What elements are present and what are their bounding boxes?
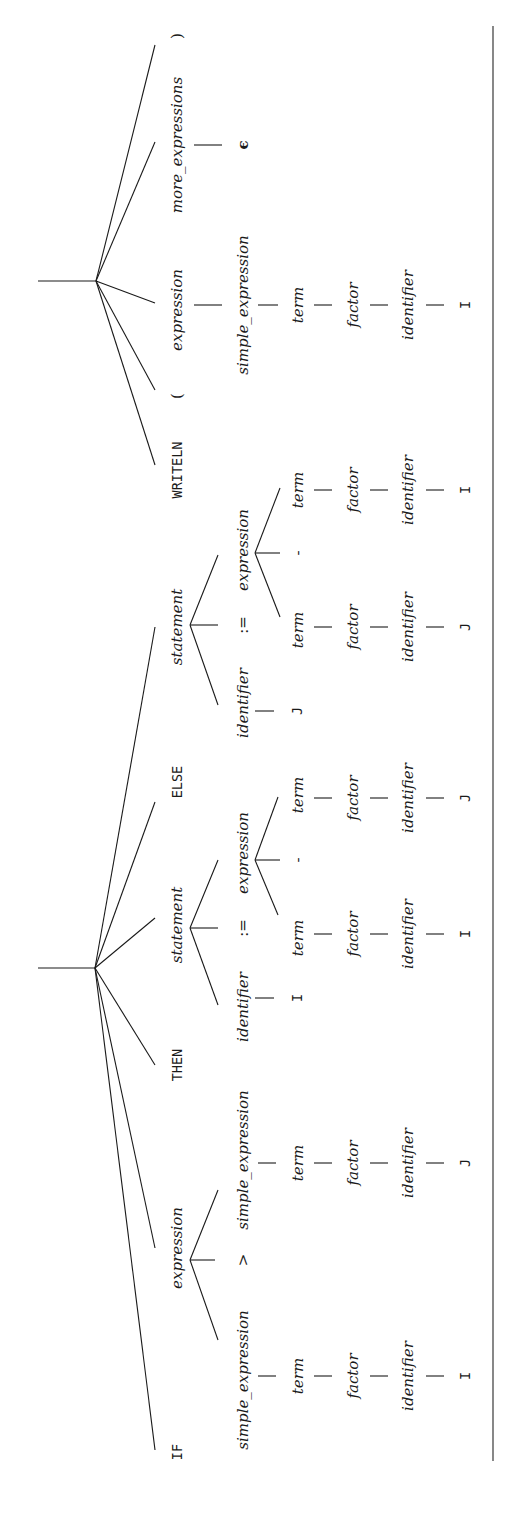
leaf-token: J [457,794,473,802]
edge-stmt2-expr [190,555,218,625]
edge-stmt1-expr [190,860,218,928]
if-keyword: IF [169,1444,185,1460]
node-identifier: identifier [399,898,417,969]
leaf-token: J [289,707,305,715]
node-statement-else: statement [168,588,186,665]
edge-root-then [95,968,155,1065]
node-simple-expression-right: simple_expression [234,1090,252,1229]
writeln-keyword: WRITELN [169,442,185,499]
tree-writeln-statement: WRITELN ( expression more_expressions ) … [38,33,473,498]
edge-root-if [95,968,155,1450]
edge-stmt1-target [190,928,218,1005]
node-identifier: identifier [399,454,417,525]
leaf-token: J [457,623,473,631]
edge-cond-left [190,1260,218,1340]
node-expression: expression [234,509,252,591]
operator-minus: - [289,857,307,862]
then-keyword: THEN [169,1049,185,1082]
edge [255,488,280,553]
edge-stmt2-target [190,625,218,705]
node-factor: factor [344,911,362,958]
edge-cond-right [190,1190,218,1260]
operator-assign: := [234,919,252,937]
node-simple-expression: simple_expression [234,235,252,374]
node-statement-then: statement [168,886,186,963]
node-factor: factor [344,282,362,329]
node-term: term [289,612,307,648]
leaf-token: I [457,301,473,309]
node-identifier-target: identifier [234,971,252,1042]
else-keyword: ELSE [169,766,185,799]
node-identifier-target: identifier [234,667,252,738]
right-paren: ) [168,33,186,39]
operator-assign: := [234,616,252,634]
epsilon-leaf: ϵ [234,140,252,149]
node-term: term [289,472,307,508]
node-identifier: identifier [399,1127,417,1198]
edge-root-statement2 [95,627,155,968]
node-identifier: identifier [399,1340,417,1411]
leaf-token: I [289,994,305,1002]
node-identifier: identifier [399,591,417,662]
node-factor: factor [344,467,362,514]
leaf-token: I [457,930,473,938]
node-term: term [289,1358,307,1394]
node-term: term [289,1145,307,1181]
leaf-token: I [457,1372,473,1380]
node-factor: factor [344,604,362,651]
tree-if-statement: IF expression THEN statement ELSE statem… [38,454,473,1460]
node-expression: expression [168,269,186,351]
node-identifier: identifier [399,269,417,340]
node-term: term [289,287,307,323]
node-factor: factor [344,775,362,822]
edge [255,860,278,915]
leaf-token: J [457,1159,473,1167]
edge-root-expression [96,281,155,303]
parse-tree-diagram: IF expression THEN statement ELSE statem… [0,0,507,1523]
node-factor: factor [344,1140,362,1187]
node-simple-expression-left: simple_expression [234,1310,252,1449]
node-factor: factor [344,1353,362,1400]
node-expression: expression [168,1207,186,1289]
node-more-expressions: more_expressions [168,77,186,214]
edge [255,553,280,617]
node-expression: expression [234,812,252,894]
leaf-token: I [457,486,473,494]
node-term: term [289,920,307,956]
operator-minus: - [289,550,307,555]
node-identifier: identifier [399,762,417,833]
left-paren: ( [168,393,186,399]
node-term: term [289,777,307,813]
edge [255,797,278,860]
operator-gt: > [234,1254,252,1267]
